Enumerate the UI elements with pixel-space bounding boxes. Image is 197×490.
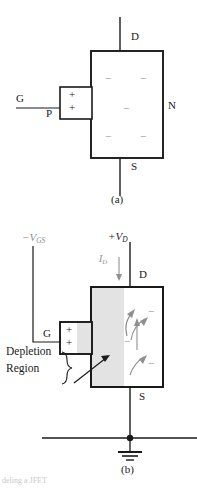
- drain-current-label: ID: [99, 254, 107, 266]
- drain-supply-label: +VD: [108, 231, 128, 244]
- panel-a-graphics: [16, 17, 163, 196]
- source-label-a: S: [131, 161, 137, 172]
- channel-charge-a-1: −: [105, 73, 111, 84]
- channel-charge-a-5: −: [140, 131, 146, 142]
- figure-caption-partial: deling a JFET: [2, 477, 47, 485]
- depletion-region-label-line1: Depletion: [6, 346, 51, 358]
- gate-charge-a-1: +: [69, 89, 75, 100]
- depletion-brace: [62, 352, 72, 384]
- panel-a-caption: (a): [111, 194, 123, 205]
- jfet-diagram-canvas: [0, 0, 197, 490]
- channel-type-label-a: N: [168, 100, 176, 111]
- channel-charge-b-2: −: [124, 336, 130, 347]
- gate-label-b: G: [43, 328, 51, 339]
- depletion-region-fill: [92, 288, 124, 386]
- channel-charge-a-3: −: [123, 103, 129, 114]
- gate-supply-value: −V: [22, 231, 36, 243]
- p-gate-depletion-fill: [77, 323, 91, 353]
- drain-supply-subscript: D: [122, 235, 127, 244]
- gate-supply-label: −VGS: [22, 232, 45, 245]
- gate-material-label-a: P: [46, 108, 52, 119]
- jfet-figure: D S G N P + + − − − − − (a) −VGS +VD ID …: [0, 0, 197, 490]
- channel-charge-a-4: −: [105, 131, 111, 142]
- gate-charge-b-2: +: [66, 337, 72, 348]
- p-gate-block-a: [60, 87, 92, 119]
- drain-current-subscript: D: [102, 258, 107, 265]
- depletion-region-label-line2: Region: [6, 363, 39, 375]
- gate-charge-b-1: +: [66, 324, 72, 335]
- channel-charge-a-2: −: [140, 73, 146, 84]
- drain-label-b: D: [139, 269, 147, 280]
- channel-charge-b-1: −: [148, 306, 154, 317]
- panel-b-graphics: [33, 242, 197, 460]
- gate-label-a: G: [16, 93, 24, 104]
- drain-current-arrow: [116, 257, 122, 281]
- gate-charge-a-2: +: [69, 102, 75, 113]
- drain-label-a: D: [131, 31, 139, 42]
- gate-supply-subscript: GS: [36, 236, 45, 245]
- source-label-b: S: [139, 391, 145, 402]
- panel-b-caption: (b): [121, 464, 134, 475]
- drain-supply-value: +V: [108, 230, 122, 242]
- channel-charge-b-3: −: [148, 358, 154, 369]
